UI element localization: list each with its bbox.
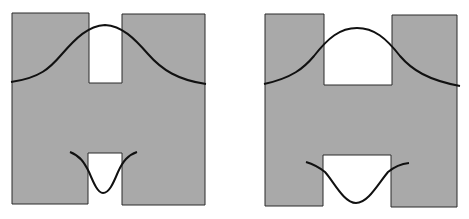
h-shape-left <box>12 13 205 205</box>
wide-gap-figure <box>264 14 460 207</box>
narrow-gap-figure <box>11 13 206 205</box>
h-shape-right <box>265 14 457 207</box>
diagram-canvas <box>0 0 469 219</box>
